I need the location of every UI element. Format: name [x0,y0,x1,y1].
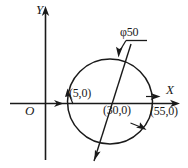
point-right-arrow [146,93,161,100]
diameter-leader-arrowhead-icon [116,47,123,58]
x-axis-label: X [166,83,174,96]
point-label-center: (30,0) [103,104,131,116]
circle-outline [68,59,153,144]
y-axis [42,6,49,160]
point-label-right: (55,0) [150,105,178,117]
diameter-label: φ50 [120,26,138,38]
y-axis-label: Y [36,3,43,16]
diameter-leader-line [116,41,147,58]
circle-diagram-figure: Y X O (5,0) (30,0) (55,0) φ50 [0,0,188,168]
diagram-canvas [0,0,188,168]
point-label-left: (5,0) [69,87,91,99]
origin-label: O [25,104,34,117]
